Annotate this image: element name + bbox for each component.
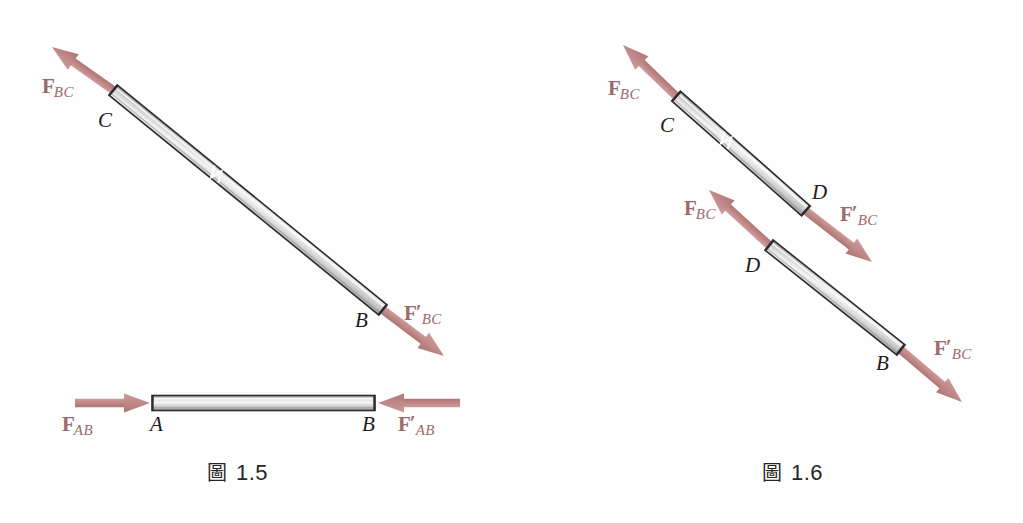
rod-segment-db — [765, 240, 905, 355]
diagram-canvas: FBC F′BC FAB F′AB C B A B 圖 1.5 FBC F′BC… — [0, 0, 1023, 523]
prime-mark: ′ — [852, 201, 858, 225]
force-subscript: BC — [858, 212, 878, 228]
force-subscript: AB — [74, 422, 93, 438]
rod-member-ab — [152, 396, 375, 411]
prime-mark: ′ — [416, 300, 422, 324]
point-label-b-diagonal-fig15: B — [355, 310, 368, 331]
force-subscript: AB — [416, 422, 435, 438]
rod-shade-line — [768, 249, 897, 352]
arrow-head — [378, 394, 404, 413]
force-symbol: F — [404, 301, 417, 325]
force-symbol: F — [398, 412, 411, 436]
force-label-fbc-prime-b-fig15: F′BC — [404, 303, 443, 324]
arrow-shaft — [724, 203, 772, 248]
force-label-fbc-c-fig16: FBC — [608, 78, 641, 99]
force-symbol: F — [608, 76, 621, 100]
rod-body — [765, 240, 905, 355]
rod-member-bc — [109, 85, 387, 315]
point-label-b-horizontal-fig15: B — [362, 414, 375, 435]
force-subscript: BC — [54, 84, 74, 100]
vector-figure-layer — [0, 0, 1023, 523]
arrow-shaft — [70, 58, 116, 94]
force-label-fbc-prime-b-fig16: F′BC — [934, 338, 973, 359]
force-subscript: BC — [696, 206, 716, 222]
force-symbol: F — [42, 74, 55, 98]
rod-body — [109, 85, 387, 315]
figure-cjk-mark: 圖 — [762, 463, 782, 483]
arrow-shaft — [638, 59, 679, 99]
force-subscript: BC — [620, 86, 640, 102]
point-label-c-fig16: C — [660, 115, 674, 136]
point-label-c-fig15: C — [98, 110, 112, 131]
figure-cjk-mark: 圖 — [207, 463, 227, 483]
force-label-fab-prime-b-fig15: F′AB — [398, 414, 436, 435]
force-label-fbc-c-fig15: FBC — [42, 76, 75, 97]
figure-number: 1.5 — [236, 462, 268, 484]
rod-highlight — [773, 244, 902, 347]
arrow-shaft — [403, 399, 461, 408]
arrow-head — [124, 394, 150, 413]
point-label-a-fig15: A — [150, 414, 163, 435]
rod-highlight — [680, 95, 807, 207]
prime-mark: ′ — [410, 411, 416, 435]
force-subscript: BC — [422, 311, 442, 327]
prime-mark: ′ — [946, 335, 952, 359]
arrow-force-ab-prime-at-b — [378, 394, 460, 413]
rod-highlight — [117, 89, 384, 306]
force-symbol: F — [934, 336, 947, 360]
force-subscript: BC — [952, 346, 972, 362]
point-label-d-lower-fig16: D — [745, 255, 760, 276]
force-symbol: F — [840, 202, 853, 226]
point-label-d-upper-fig16: D — [812, 182, 827, 203]
force-symbol: F — [684, 196, 697, 220]
point-label-b-fig16: B — [876, 353, 889, 374]
figure-caption-1-5: 圖 1.5 — [207, 462, 268, 484]
force-symbol: F — [62, 412, 75, 436]
arrow-force-ab-at-a — [75, 394, 150, 413]
force-label-fab-a-fig15: FAB — [62, 414, 94, 435]
force-label-fbc-prime-d-upper-fig16: F′BC — [840, 204, 879, 225]
force-label-fbc-d-lower-fig16: FBC — [684, 198, 717, 219]
arrow-shaft — [75, 399, 126, 408]
figure-caption-1-6: 圖 1.6 — [762, 462, 823, 484]
rod-shade-line — [112, 94, 379, 311]
figure-number: 1.6 — [791, 462, 823, 484]
